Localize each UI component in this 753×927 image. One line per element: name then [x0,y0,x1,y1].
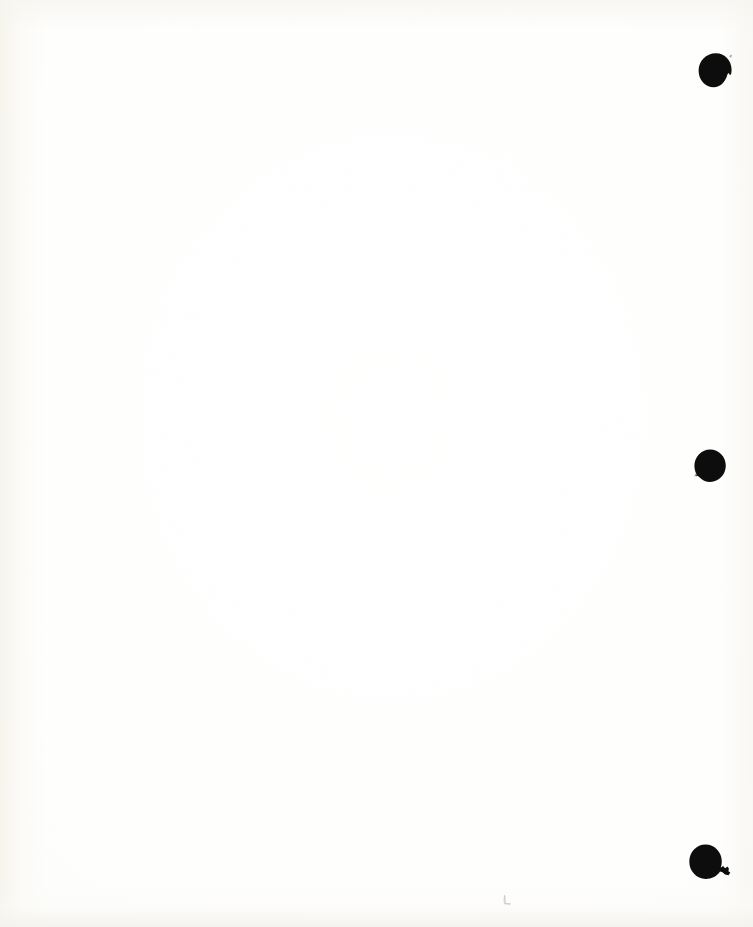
punch-hole-mark-top [696,51,736,92]
punch-hole-mark-bottom [687,842,735,884]
page-edge-shading-top [0,0,753,30]
page-edge-shading-left [0,0,46,927]
page-edge-shading-bottom [0,885,753,927]
scanned-page [0,0,753,927]
page-body-text [60,60,660,840]
pencil-tick-mark [500,894,516,910]
punch-hole-mark-middle [691,447,731,487]
